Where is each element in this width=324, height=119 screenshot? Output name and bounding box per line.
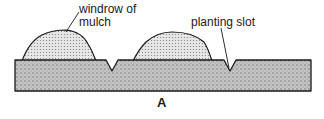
soil-bed xyxy=(15,60,311,91)
figure-caption: A xyxy=(157,96,166,109)
windrow-leader-line xyxy=(66,12,79,32)
windrow-mound-1 xyxy=(22,30,96,61)
planting-slot-label: planting slot xyxy=(191,16,255,29)
windrow-mound-2 xyxy=(133,32,212,61)
windrow-label: windrow of mulch xyxy=(79,3,149,29)
